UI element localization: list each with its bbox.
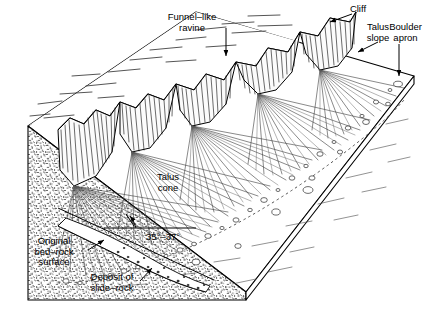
label-boulder-apron: Boulder apron bbox=[382, 22, 429, 43]
label-cliff: Cliff bbox=[336, 4, 380, 15]
label-funnel-like-ravine: Funnel–like ravine bbox=[150, 12, 234, 33]
label-talus-cone: Talus cone bbox=[144, 172, 192, 193]
talus-slope-leader bbox=[358, 42, 378, 52]
label-original-bedrock-surface: Original bed–rock surface bbox=[18, 236, 90, 268]
talus-block-diagram: Cliff Funnel–like ravine Talus slope Bou… bbox=[0, 0, 429, 318]
diagram-canvas bbox=[0, 0, 429, 318]
label-slope-angle: 35°–37° bbox=[146, 232, 180, 243]
label-deposit-of-slide-rock: Deposit of slide–rock bbox=[74, 272, 150, 293]
